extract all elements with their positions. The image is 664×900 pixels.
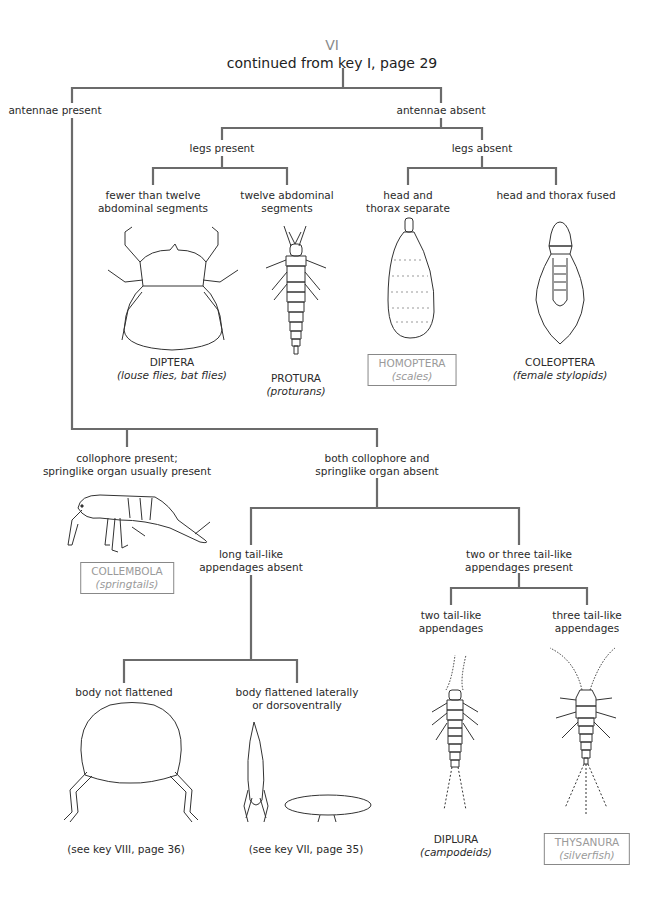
reference-key-viii-link[interactable]: (see key VIII, page 36)	[67, 843, 185, 856]
node-head-thorax-separate: head and thorax separate	[366, 189, 450, 215]
taxon-protura: PROTURA (proturans)	[266, 372, 325, 398]
node-text-line: springlike organ usually present	[43, 465, 211, 478]
identification-key-page: VI continued from key I, page 29 antenna…	[0, 0, 664, 900]
key-title: continued from key I, page 29	[227, 55, 437, 71]
node-twelve-abdominal-segments: twelve abdominal segments	[240, 189, 333, 215]
node-legs-absent: legs absent	[452, 142, 513, 155]
thysanura-illustration	[550, 648, 616, 815]
node-body-not-flattened: body not flattened	[75, 686, 172, 699]
node-text-line: collophore present;	[43, 452, 211, 465]
node-long-tail-absent: long tail-like appendages absent	[199, 548, 303, 574]
node-text-line: both collophore and	[315, 452, 438, 465]
taxon-common-name: (scales)	[379, 370, 446, 383]
node-text-line: fewer than twelve	[98, 189, 208, 202]
node-text-line: twelve abdominal	[240, 189, 333, 202]
node-text-line: thorax separate	[366, 202, 450, 215]
node-text-line: springlike organ absent	[315, 465, 438, 478]
taxon-name: DIPLURA	[420, 833, 492, 846]
key-number: VI	[325, 37, 339, 53]
node-antennae-absent: antennae absent	[396, 104, 485, 117]
taxon-coleoptera: COLEOPTERA (female stylopids)	[513, 356, 608, 382]
taxon-homoptera: HOMOPTERA (scales)	[368, 354, 457, 386]
taxon-name: THYSANURA	[555, 836, 619, 849]
node-text-line: two or three tail-like	[465, 548, 573, 561]
node-both-absent: both collophore and springlike organ abs…	[315, 452, 438, 478]
homoptera-illustration	[388, 218, 434, 338]
taxon-name: HOMOPTERA	[379, 357, 446, 370]
key-branch-lines	[0, 0, 664, 900]
protura-illustration	[266, 226, 326, 354]
reference-key-vii-link[interactable]: (see key VII, page 35)	[249, 843, 364, 856]
node-text-line: two tail-like	[419, 609, 484, 622]
node-body-flattened: body flattened laterally or dorsoventral…	[236, 686, 359, 712]
node-text-line: long tail-like	[199, 548, 303, 561]
node-text-line: appendages absent	[199, 561, 303, 574]
taxon-common-name: (silverfish)	[555, 849, 619, 862]
taxon-common-name: (campodeids)	[420, 846, 492, 859]
taxon-common-name: (proturans)	[266, 385, 325, 398]
node-text-line: body flattened laterally	[236, 686, 359, 699]
node-legs-present: legs present	[190, 142, 255, 155]
taxon-common-name: (springtails)	[91, 578, 163, 591]
node-text-line: head and	[366, 189, 450, 202]
taxon-name: PROTURA	[266, 372, 325, 385]
node-three-tail: three tail-like appendages	[552, 609, 621, 635]
node-text-line: three tail-like	[552, 609, 621, 622]
taxon-diptera: DIPTERA (louse flies, bat flies)	[117, 356, 227, 382]
taxon-common-name: (louse flies, bat flies)	[117, 369, 227, 382]
taxon-thysanura: THYSANURA (silverfish)	[544, 833, 630, 865]
taxon-collembola: COLLEMBOLA (springtails)	[80, 562, 174, 594]
node-text-line: appendages	[419, 622, 484, 635]
body-not-flattened-illustration	[64, 703, 198, 823]
node-antennae-present: antennae present	[8, 104, 101, 117]
coleoptera-illustration	[536, 222, 584, 344]
node-text-line: abdominal segments	[98, 202, 208, 215]
node-two-tail: two tail-like appendages	[419, 609, 484, 635]
node-text-line: segments	[240, 202, 333, 215]
taxon-name: COLLEMBOLA	[91, 565, 163, 578]
taxon-name: COLEOPTERA	[513, 356, 608, 369]
diptera-illustration	[108, 227, 238, 350]
node-text-line: appendages	[552, 622, 621, 635]
node-head-thorax-fused: head and thorax fused	[496, 189, 615, 202]
node-fewer-than-twelve-segments: fewer than twelve abdominal segments	[98, 189, 208, 215]
body-flattened-illustration	[244, 722, 371, 822]
node-collophore-present: collophore present; springlike organ usu…	[43, 452, 211, 478]
node-text-line: appendages present	[465, 561, 573, 574]
node-two-three-tail-present: two or three tail-like appendages presen…	[465, 548, 573, 574]
node-text-line: or dorsoventrally	[236, 699, 359, 712]
collembola-illustration	[68, 495, 210, 552]
taxon-diplura: DIPLURA (campodeids)	[420, 833, 492, 859]
taxon-common-name: (female stylopids)	[513, 369, 608, 382]
taxon-name: DIPTERA	[117, 356, 227, 369]
diplura-illustration	[432, 655, 478, 810]
